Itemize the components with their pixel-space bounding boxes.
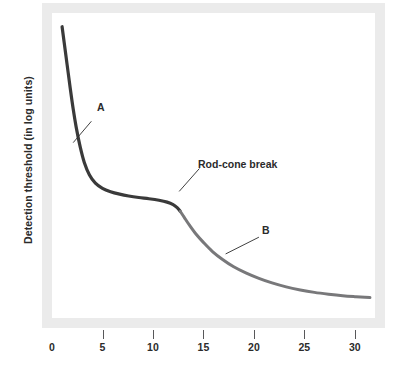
x-tick-mark-25 (304, 330, 305, 339)
curve-a-label: A (97, 101, 105, 113)
x-tick-mark-30 (355, 330, 356, 339)
x-tick-label-15: 15 (183, 341, 223, 353)
dark-adaptation-chart: Detection threshold (in log units) 05101… (0, 0, 395, 366)
x-tick-label-25: 25 (284, 341, 324, 353)
x-tick-mark-20 (254, 330, 255, 339)
curve-b-label: B (262, 224, 270, 236)
x-tick-label-20: 20 (234, 341, 274, 353)
curve-a (62, 27, 180, 212)
leader-line (226, 237, 259, 254)
x-tick-label-0: 0 (32, 341, 72, 353)
x-tick-label-30: 30 (335, 341, 375, 353)
x-tick-label-10: 10 (133, 341, 173, 353)
curve-b (180, 211, 370, 297)
x-tick-mark-5 (103, 330, 104, 339)
y-axis-title: Detection threshold (in log units) (18, 80, 38, 240)
x-tick-label-5: 5 (83, 341, 123, 353)
x-tick-mark-15 (203, 330, 204, 339)
y-axis-title-text: Detection threshold (in log units) (22, 76, 34, 244)
leader-line (179, 169, 199, 192)
rod-cone-break-label: Rod-cone break (198, 158, 277, 170)
x-tick-mark-10 (153, 330, 154, 339)
